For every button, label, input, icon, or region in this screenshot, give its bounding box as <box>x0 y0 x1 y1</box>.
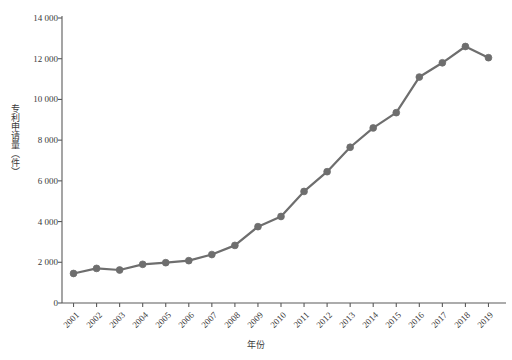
data-point-marker <box>93 265 100 272</box>
data-series-line <box>74 47 489 274</box>
data-point-marker <box>208 251 215 258</box>
x-axis-title: 年份 <box>0 338 512 351</box>
data-point-marker <box>347 144 354 151</box>
data-point-marker <box>139 261 146 268</box>
data-point-marker <box>301 188 308 195</box>
data-point-marker <box>485 54 492 61</box>
data-point-marker <box>439 59 446 66</box>
data-point-marker <box>324 168 331 175</box>
data-point-marker <box>116 267 123 274</box>
data-point-marker <box>462 43 469 50</box>
data-point-marker <box>185 257 192 264</box>
patent-application-line-chart: 专利申请量（件） 02 0004 0006 0008 00010 00012 0… <box>0 0 512 360</box>
plot-area <box>0 0 512 360</box>
data-point-marker <box>162 259 169 266</box>
data-point-marker <box>255 223 262 230</box>
data-point-marker <box>70 270 77 277</box>
data-point-marker <box>393 109 400 116</box>
data-point-marker <box>370 125 377 132</box>
data-point-marker <box>416 74 423 81</box>
data-point-marker <box>278 213 285 220</box>
data-point-marker <box>231 242 238 249</box>
